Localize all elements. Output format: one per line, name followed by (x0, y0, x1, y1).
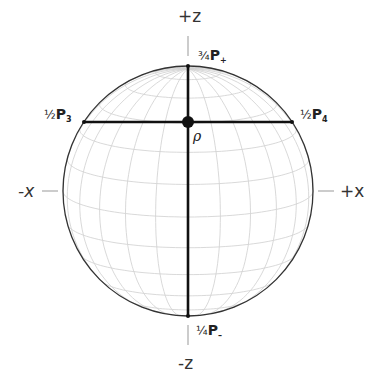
rho-label: ρ (193, 129, 201, 143)
grid-line (188, 69, 309, 287)
right-endpoint (290, 120, 294, 124)
axis-label-minus-z: -z (178, 355, 193, 372)
top-endpoint (186, 64, 190, 68)
grid-line (188, 69, 251, 315)
point-label-bottom: ¼P– (196, 323, 222, 340)
point-label-right: ½P4 (300, 107, 327, 124)
point-label-top: ¾P+ (198, 48, 227, 65)
grid-line (188, 69, 313, 191)
axis-label-plus-z: +z (178, 8, 201, 25)
point-label-left: ½P3 (44, 107, 71, 124)
axis-label-plus-x: +x (340, 183, 364, 200)
rho-point (182, 116, 194, 128)
left-endpoint (82, 120, 86, 124)
grid-line (156, 69, 188, 316)
grid-line (67, 69, 188, 287)
grid-line (188, 69, 276, 313)
grid-line (126, 69, 189, 315)
grid-line (63, 69, 188, 191)
grid-line (100, 69, 188, 313)
bloch-sphere-diagram (0, 0, 378, 385)
axis-label-minus-x: -x (18, 183, 34, 200)
bottom-endpoint (186, 314, 190, 318)
grid-line (188, 69, 220, 316)
